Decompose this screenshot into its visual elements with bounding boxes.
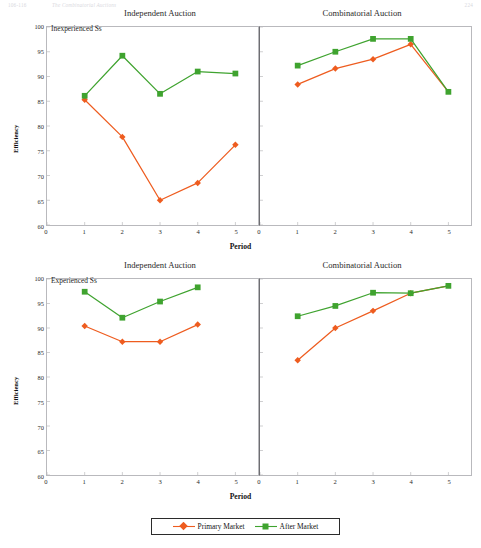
x-tick-0-3: 3 [153, 228, 167, 235]
data-point-marker [81, 323, 87, 329]
data-point-marker [157, 339, 163, 345]
x-tick-0-0: 0 [39, 228, 53, 235]
plot-independent-experienced[interactable] [46, 278, 259, 476]
y-tick-85: 85 [18, 98, 44, 105]
x-axis-label-top: Period [0, 242, 481, 251]
y-tick-70: 70 [18, 423, 44, 430]
data-point-marker [408, 36, 414, 42]
x-tick-1-5: 5 [442, 228, 456, 235]
y-tick-75: 75 [18, 398, 44, 405]
data-point-marker [446, 89, 452, 95]
y-tick-80: 80 [18, 123, 44, 130]
y-tick-75: 75 [18, 148, 44, 155]
y-tick-100: 100 [18, 275, 44, 282]
data-point-marker [195, 284, 201, 290]
row-label-inexperienced: Inexperienced Ss [51, 24, 102, 33]
legend-item-after-market[interactable]: After Market [255, 522, 319, 531]
plot-independent-inexperienced[interactable] [46, 26, 259, 226]
legend-label-primary-market: Primary Market [198, 522, 245, 531]
data-point-marker [194, 321, 200, 327]
plot-svg-independent-experienced [47, 279, 258, 475]
y-tick-95: 95 [18, 48, 44, 55]
data-point-marker [157, 299, 163, 305]
series-line-primary-market [298, 44, 449, 92]
data-point-marker [233, 71, 239, 77]
series-line-primary-market [85, 100, 236, 200]
y-tick-labels-bottom: 6065707580859095100 [16, 278, 44, 476]
square-marker-icon [255, 522, 277, 531]
y-tick-95: 95 [18, 299, 44, 306]
series-line-after-market [298, 39, 449, 92]
row-label-experienced: Experienced Ss [51, 276, 97, 285]
x-tick-0-5: 5 [229, 228, 243, 235]
data-point-marker [119, 339, 125, 345]
data-point-marker [157, 91, 163, 97]
x-tick-1-2: 2 [328, 478, 342, 485]
x-tick-0-1: 1 [77, 228, 91, 235]
x-tick-labels-top: 012345012345 [0, 228, 481, 240]
data-point-marker [370, 290, 376, 296]
data-point-marker [408, 290, 414, 296]
y-tick-70: 70 [18, 173, 44, 180]
data-point-marker [82, 93, 88, 99]
data-point-marker [370, 36, 376, 42]
plot-combinatorial-experienced[interactable] [259, 278, 472, 476]
legend-label-after-market: After Market [280, 522, 319, 531]
chart-legend[interactable]: Primary Market After Market [151, 518, 340, 535]
data-point-marker [370, 308, 376, 314]
data-point-marker [294, 81, 300, 87]
data-point-marker [370, 56, 376, 62]
x-tick-1-4: 4 [404, 478, 418, 485]
panel-row-inexperienced: Independent Auction Combinatorial Auctio… [0, 8, 481, 266]
data-point-marker [295, 63, 301, 69]
x-tick-0-2: 2 [115, 228, 129, 235]
data-point-marker [332, 49, 338, 55]
column-title-independent-auction-bottom: Independent Auction [60, 260, 260, 270]
data-point-marker [332, 65, 338, 71]
y-tick-90: 90 [18, 73, 44, 80]
data-point-marker [119, 53, 125, 59]
y-tick-labels-top: 6065707580859095100 [16, 26, 44, 226]
legend-item-primary-market[interactable]: Primary Market [173, 522, 245, 531]
data-point-marker [295, 313, 301, 319]
x-tick-1-1: 1 [290, 228, 304, 235]
x-tick-1-5: 5 [442, 478, 456, 485]
plot-combinatorial-inexperienced[interactable] [259, 26, 472, 226]
data-point-marker [119, 315, 125, 321]
y-tick-65: 65 [18, 448, 44, 455]
x-tick-labels-bottom: 012345012345 [0, 478, 481, 490]
plot-svg-combinatorial-inexperienced [260, 27, 471, 225]
x-tick-1-1: 1 [290, 478, 304, 485]
column-title-combinatorial-auction-top: Combinatorial Auction [262, 8, 462, 18]
x-tick-0-2: 2 [115, 478, 129, 485]
series-line-primary-market [298, 286, 449, 360]
x-tick-1-3: 3 [366, 478, 380, 485]
x-tick-1-2: 2 [328, 228, 342, 235]
x-tick-1-3: 3 [366, 228, 380, 235]
x-axis-label-bottom: Period [0, 492, 481, 501]
x-tick-0-1: 1 [77, 478, 91, 485]
series-line-after-market [85, 56, 236, 96]
data-point-marker [332, 303, 338, 309]
y-tick-80: 80 [18, 374, 44, 381]
diamond-marker-icon [173, 522, 195, 531]
x-tick-0-3: 3 [153, 478, 167, 485]
x-tick-0-4: 4 [191, 228, 205, 235]
y-tick-90: 90 [18, 324, 44, 331]
x-tick-1-4: 4 [404, 228, 418, 235]
x-tick-0-5: 5 [229, 478, 243, 485]
figure-efficiency-by-period: Independent Auction Combinatorial Auctio… [0, 0, 481, 548]
series-line-primary-market [85, 325, 198, 342]
x-tick-0-4: 4 [191, 478, 205, 485]
plot-svg-independent-inexperienced [47, 27, 258, 225]
data-point-marker [157, 197, 163, 203]
x-tick-1-0: 0 [252, 228, 266, 235]
column-title-independent-auction-top: Independent Auction [60, 8, 260, 18]
y-tick-85: 85 [18, 349, 44, 356]
series-line-after-market [85, 287, 198, 317]
data-point-marker [82, 289, 88, 295]
data-point-marker [446, 283, 452, 289]
x-tick-1-0: 0 [252, 478, 266, 485]
panel-row-experienced: Independent Auction Combinatorial Auctio… [0, 260, 481, 516]
data-point-marker [195, 69, 201, 75]
